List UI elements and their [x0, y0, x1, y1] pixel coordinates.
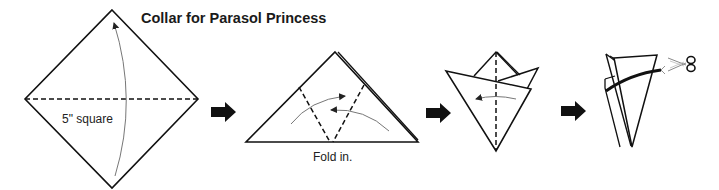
step-2-label: Fold in. — [313, 150, 352, 164]
step-arrow-icon — [561, 101, 586, 121]
step-arrow-icon — [426, 103, 451, 123]
step-arrow-icon — [211, 102, 236, 122]
step-2-triangle — [246, 52, 418, 142]
scissors-icon — [668, 57, 695, 72]
step-3-shape — [446, 52, 538, 151]
fold-in-arrow-right — [331, 110, 389, 131]
diagram-canvas — [0, 0, 719, 190]
step-1-square — [25, 10, 198, 188]
step-1-label: 5" square — [62, 112, 113, 126]
step-4-cut — [605, 54, 665, 147]
